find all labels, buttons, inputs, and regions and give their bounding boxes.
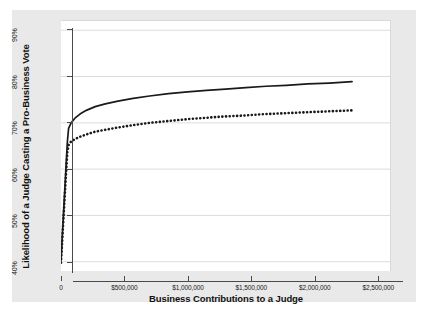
y-axis-title: Likelihood of a Judge Casting a Pro-Busi…: [16, 10, 34, 302]
x-tick-mark: [378, 276, 379, 281]
y-tick-mark: [67, 169, 72, 170]
x-tick-mark: [124, 276, 125, 281]
series-upper-curve: [61, 82, 352, 261]
x-axis-title: Business Contributions to a Judge: [61, 293, 391, 304]
y-tick-label: 50%: [11, 215, 18, 228]
y-tick-label: 70%: [11, 122, 18, 135]
y-tick-label: 90%: [11, 29, 18, 42]
chart-figure: Likelihood of a Judge Casting a Pro-Busi…: [12, 10, 416, 302]
y-tick-label: 40%: [11, 261, 18, 274]
y-tick-mark: [67, 76, 72, 77]
x-tick-label: $2,500,000: [363, 284, 395, 291]
x-tick-mark: [61, 276, 62, 281]
x-tick-label: $2,000,000: [299, 284, 331, 291]
y-tick-label: 80%: [11, 75, 18, 88]
y-tick-mark: [67, 215, 72, 216]
x-tick-label: $1,500,000: [236, 284, 268, 291]
x-tick-label: 0: [59, 284, 63, 291]
x-tick-label: $1,000,000: [172, 284, 204, 291]
x-tick-mark: [315, 276, 316, 281]
x-tick-mark: [251, 276, 252, 281]
series-lower-curve: [61, 110, 352, 262]
plot-area: [61, 20, 391, 271]
y-tick-mark: [67, 29, 72, 30]
y-tick-label: 60%: [11, 168, 18, 181]
x-tick-mark: [188, 276, 189, 281]
y-axis-title-text: Likelihood of a Judge Casting a Pro-Busi…: [20, 44, 31, 269]
y-tick-mark: [67, 122, 72, 123]
data-curves: [61, 21, 390, 271]
y-tick-mark: [67, 262, 72, 263]
x-axis-line: [73, 281, 403, 282]
x-tick-label: $500,000: [111, 284, 137, 291]
y-axis-line: [72, 28, 73, 273]
